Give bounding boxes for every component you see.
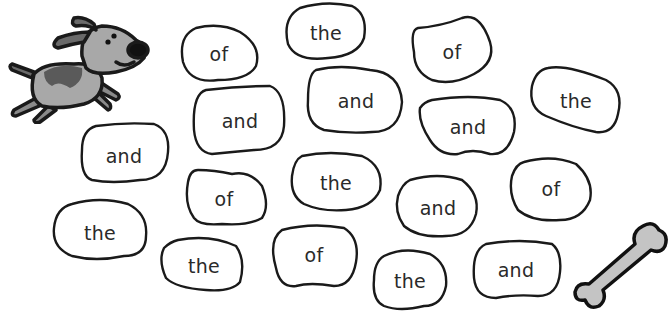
word-and[interactable]: and <box>450 116 487 138</box>
word-and[interactable]: and <box>420 197 457 219</box>
word-blobs <box>0 0 669 313</box>
word-the[interactable]: the <box>394 270 426 292</box>
word-the[interactable]: the <box>188 255 220 277</box>
word-the[interactable]: the <box>560 90 592 112</box>
word-of[interactable]: of <box>542 178 561 200</box>
word-and[interactable]: and <box>106 145 143 167</box>
word-of[interactable]: of <box>305 244 324 266</box>
word-the[interactable]: the <box>320 172 352 194</box>
word-of[interactable]: of <box>215 188 234 210</box>
word-of[interactable]: of <box>443 41 462 63</box>
word-of[interactable]: of <box>210 43 229 65</box>
word-the[interactable]: the <box>84 222 116 244</box>
word-the[interactable]: the <box>310 22 342 44</box>
word-and[interactable]: and <box>338 90 375 112</box>
word-and[interactable]: and <box>222 110 259 132</box>
word-and[interactable]: and <box>498 259 535 281</box>
worksheet: of the of the and and and and of the and… <box>0 0 669 313</box>
bone-icon <box>573 220 669 310</box>
